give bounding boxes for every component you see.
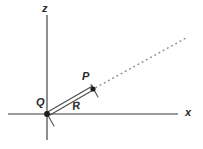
vector-R-label: R — [71, 100, 81, 112]
point-P-label: P — [82, 71, 89, 82]
point-Q-dot — [44, 111, 50, 117]
geometry-figure: z x Q P R — [0, 0, 203, 149]
z-axis-label: z — [42, 3, 48, 14]
x-axis-label: x — [185, 107, 191, 118]
vector-upper-edge — [49, 86, 93, 112]
point-P-dot — [90, 86, 95, 91]
point-Q-label: Q — [36, 97, 45, 108]
figure-canvas — [0, 0, 203, 149]
extension-ray-dotted — [96, 38, 186, 88]
